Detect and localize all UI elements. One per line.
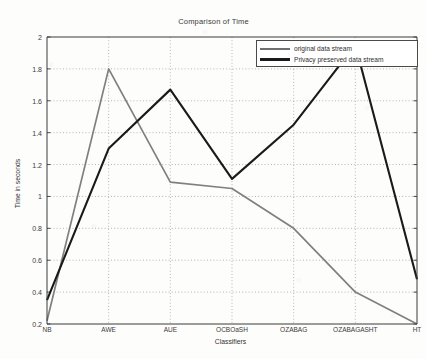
x-tick-label: OZABAG [280, 326, 307, 333]
y-axis-title: Time in seconds [14, 139, 21, 229]
legend-label-original: original data stream [294, 45, 352, 52]
x-tick-label: NB [42, 326, 51, 333]
y-tick-label: 1 [20, 193, 42, 200]
legend-item: Privacy preserved data stream [260, 54, 414, 65]
chart-figure: Comparison of Time 0.20.40.60.811.21.41.… [0, 0, 427, 359]
x-tick-label: AUE [164, 326, 177, 333]
x-tick-label: HT [413, 326, 422, 333]
legend-swatch-original [260, 48, 290, 50]
x-tick-label: OZABAGASHT [333, 326, 377, 333]
legend-label-privacy: Privacy preserved data stream [294, 56, 383, 63]
x-axis-title: Classifiers [44, 338, 417, 345]
y-tick-label: 0.2 [20, 321, 42, 328]
legend-swatch-privacy [260, 58, 290, 61]
y-tick-label: 0.8 [20, 225, 42, 232]
y-tick-label: 1.4 [20, 129, 42, 136]
y-tick-label: 1.6 [20, 97, 42, 104]
x-tick-label: AWE [101, 326, 116, 333]
gridlines [47, 37, 417, 324]
chart-legend: original data stream Privacy preserved d… [256, 40, 418, 67]
x-tick-label: OCBOaSH [216, 326, 248, 333]
y-tick-label: 0.4 [20, 289, 42, 296]
y-tick-label: 2 [20, 34, 42, 41]
legend-item: original data stream [260, 43, 414, 54]
y-tick-label: 0.6 [20, 257, 42, 264]
y-tick-label: 1.8 [20, 65, 42, 72]
y-tick-label: 1.2 [20, 161, 42, 168]
